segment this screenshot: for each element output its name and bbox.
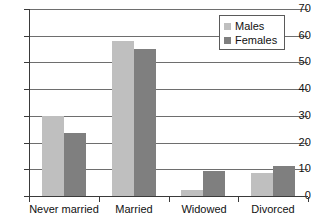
legend-swatch-females xyxy=(224,37,231,44)
x-category-label: Divorced xyxy=(238,203,308,215)
y-tick-label: 30 xyxy=(289,110,311,121)
legend-item-females: Females xyxy=(224,33,284,47)
legend: Males Females xyxy=(219,15,285,50)
bar-females-married xyxy=(134,49,156,196)
legend-label-females: Females xyxy=(235,35,277,46)
y-tick-label: 70 xyxy=(289,3,311,14)
bar-males-widowed xyxy=(181,190,203,196)
x-tick-mark xyxy=(308,197,309,202)
gridline xyxy=(29,116,308,117)
bar-chart: 010203040506070 Never marriedMarriedWido… xyxy=(0,0,311,220)
y-tick-label: 20 xyxy=(289,137,311,148)
y-axis-line xyxy=(29,9,30,197)
legend-label-males: Males xyxy=(235,21,264,32)
bar-males-never-married xyxy=(42,116,64,196)
legend-swatch-males xyxy=(224,23,231,30)
x-category-label: Married xyxy=(99,203,169,215)
x-tick-mark xyxy=(29,197,30,202)
y-tick-label: 50 xyxy=(289,56,311,67)
y-tick-label: 40 xyxy=(289,83,311,94)
bar-females-never-married xyxy=(64,133,86,196)
x-tick-mark xyxy=(238,197,239,202)
x-category-label: Widowed xyxy=(169,203,239,215)
x-tick-mark xyxy=(99,197,100,202)
y-tick-label: 60 xyxy=(289,30,311,41)
gridline xyxy=(29,62,308,63)
bar-females-widowed xyxy=(203,171,225,196)
bar-males-divorced xyxy=(251,173,273,196)
gridline xyxy=(29,9,308,10)
x-tick-mark xyxy=(169,197,170,202)
gridline xyxy=(29,89,308,90)
bar-males-married xyxy=(112,41,134,196)
legend-item-males: Males xyxy=(224,19,284,33)
bar-females-divorced xyxy=(273,166,295,196)
x-category-label: Never married xyxy=(29,203,99,215)
